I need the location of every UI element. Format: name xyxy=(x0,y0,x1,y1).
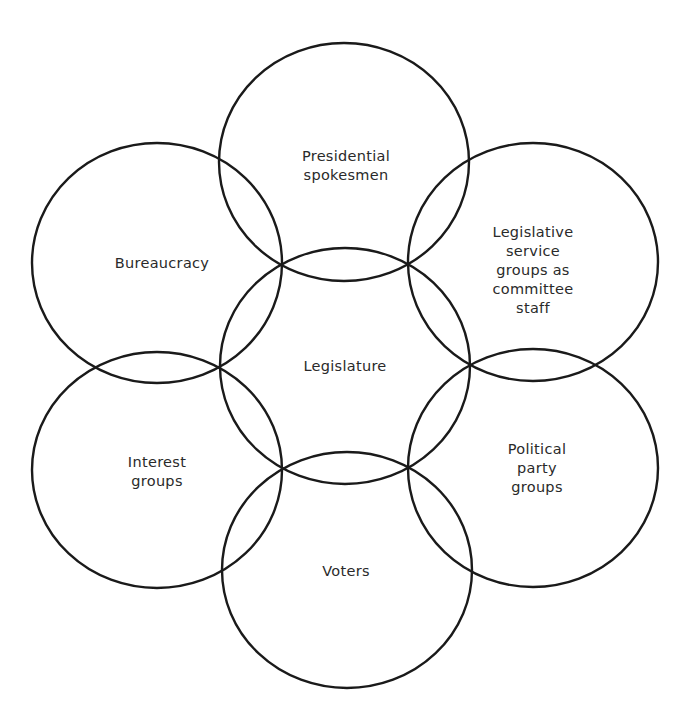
label-line: groups xyxy=(508,478,566,497)
label-line: service xyxy=(492,242,573,261)
label-line: party xyxy=(508,459,566,478)
label-line: Legislative xyxy=(492,223,573,242)
label-presidential-spokesmen: Presidential spokesmen xyxy=(302,147,390,185)
label-interest-groups: Interest groups xyxy=(128,453,186,491)
label-line: Interest xyxy=(128,453,186,472)
label-bureaucracy: Bureaucracy xyxy=(115,254,209,273)
label-line: Political xyxy=(508,440,566,459)
label-legislative-service-groups: Legislative service groups as committee … xyxy=(492,223,573,318)
label-political-party-groups: Political party groups xyxy=(508,440,566,497)
label-line: Presidential xyxy=(302,147,390,166)
label-line: spokesmen xyxy=(302,166,390,185)
label-line: staff xyxy=(492,299,573,318)
label-legislature: Legislature xyxy=(303,357,386,376)
label-line: groups as xyxy=(492,261,573,280)
label-voters: Voters xyxy=(322,562,370,581)
label-line: committee xyxy=(492,280,573,299)
label-line: Legislature xyxy=(303,357,386,376)
label-line: groups xyxy=(128,472,186,491)
label-line: Voters xyxy=(322,562,370,581)
label-line: Bureaucracy xyxy=(115,254,209,273)
